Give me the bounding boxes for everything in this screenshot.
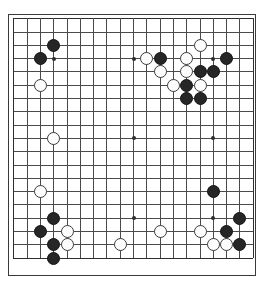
stone-white-14-5[interactable] [180, 65, 193, 78]
stone-black-16-14[interactable] [207, 185, 220, 198]
stone-black-4-18[interactable] [47, 238, 60, 251]
stone-white-12-17[interactable] [154, 225, 167, 238]
stone-white-11-4[interactable] [140, 52, 153, 65]
stone-white-12-5[interactable] [154, 65, 167, 78]
board-stones[interactable] [0, 0, 265, 288]
stone-white-9-18[interactable] [114, 238, 127, 251]
stone-white-3-14[interactable] [34, 185, 47, 198]
stone-black-16-5[interactable] [207, 65, 220, 78]
stone-white-3-6[interactable] [34, 79, 47, 92]
stone-black-14-6[interactable] [180, 79, 193, 92]
stone-white-4-10[interactable] [47, 132, 60, 145]
stone-white-17-18[interactable] [220, 238, 233, 251]
stone-black-3-17[interactable] [34, 225, 47, 238]
stone-white-13-6[interactable] [167, 79, 180, 92]
stone-black-3-4[interactable] [34, 52, 47, 65]
stone-white-16-18[interactable] [207, 238, 220, 251]
stone-black-15-5[interactable] [194, 65, 207, 78]
stone-white-15-3[interactable] [194, 39, 207, 52]
stone-black-14-7[interactable] [180, 92, 193, 105]
stone-black-4-16[interactable] [47, 212, 60, 225]
stone-black-17-17[interactable] [220, 225, 233, 238]
stone-black-4-3[interactable] [47, 39, 60, 52]
stone-white-5-18[interactable] [61, 238, 74, 251]
stone-white-15-6[interactable] [194, 79, 207, 92]
stone-black-4-19[interactable] [47, 252, 60, 265]
stone-white-15-17[interactable] [194, 225, 207, 238]
stone-black-15-7[interactable] [194, 92, 207, 105]
stone-white-5-17[interactable] [61, 225, 74, 238]
go-board-app: Go Board Position [0, 0, 265, 288]
stone-black-17-4[interactable] [220, 52, 233, 65]
stone-black-12-4[interactable] [154, 52, 167, 65]
stone-black-18-18[interactable] [233, 238, 246, 251]
stone-white-14-4[interactable] [180, 52, 193, 65]
stone-black-18-16[interactable] [233, 212, 246, 225]
